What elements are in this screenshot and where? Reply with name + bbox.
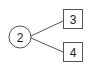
child-node-3: 3 [64,10,83,29]
child-node-label: 4 [70,46,77,60]
child-node-label: 3 [70,13,77,27]
edge-2-to-3 [31,21,63,36]
root-node-label: 2 [17,31,24,45]
edge-2-to-4 [31,38,63,52]
child-node-4: 4 [64,43,83,62]
tree-diagram: 2 3 4 [0,0,92,71]
root-node: 2 [9,26,31,48]
